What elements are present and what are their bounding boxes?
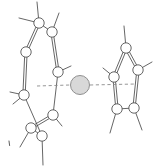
atom-node [26, 123, 36, 133]
atom-node [109, 72, 119, 82]
atom-node [48, 110, 58, 120]
atom-node [112, 104, 122, 114]
atom-node [47, 27, 57, 37]
atom-node [53, 67, 63, 77]
structure-canvas [0, 0, 160, 168]
atom-node [19, 90, 29, 100]
atom-node [21, 47, 31, 57]
atom-node [133, 65, 143, 75]
central-metal-sphere [71, 76, 90, 95]
molecular-structure-figure [0, 0, 160, 168]
corner-mark-group [9, 141, 10, 146]
stray-tick-mark [9, 141, 10, 146]
atom-node [129, 103, 139, 113]
central-sphere-group [71, 76, 90, 95]
atom-node [34, 18, 44, 28]
atom-node [121, 43, 131, 53]
atom-node [37, 131, 47, 141]
